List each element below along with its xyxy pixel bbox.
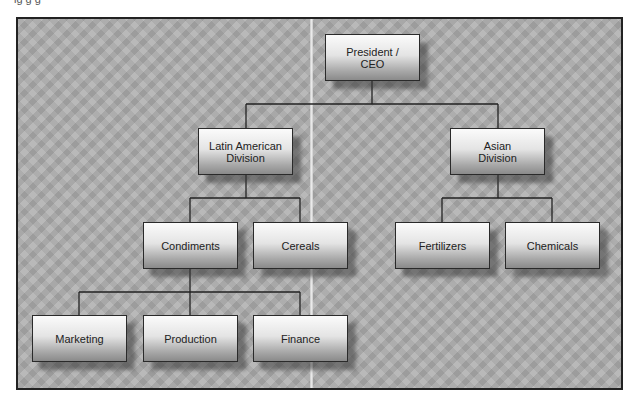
node-fertilizers[interactable]: Fertilizers xyxy=(395,222,490,269)
node-label: Production xyxy=(164,333,217,345)
node-chemicals[interactable]: Chemicals xyxy=(505,222,600,269)
node-label: Asian Division xyxy=(478,140,517,164)
node-label: Condiments xyxy=(161,240,220,252)
node-president-ceo[interactable]: President / CEO xyxy=(325,34,420,81)
cropped-caption-text: ig g g xyxy=(14,0,41,5)
node-label: Latin American Division xyxy=(209,140,282,164)
node-production[interactable]: Production xyxy=(143,315,238,362)
node-label: Fertilizers xyxy=(419,240,467,252)
node-marketing[interactable]: Marketing xyxy=(32,315,127,362)
node-condiments[interactable]: Condiments xyxy=(143,222,238,269)
org-chart-frame: President / CEO Latin American Division … xyxy=(16,17,623,390)
node-cereals[interactable]: Cereals xyxy=(253,222,348,269)
node-asian-division[interactable]: Asian Division xyxy=(450,128,545,175)
node-label: Cereals xyxy=(282,240,320,252)
node-label: Finance xyxy=(281,333,320,345)
node-label: President / CEO xyxy=(346,46,399,70)
node-latin-american-division[interactable]: Latin American Division xyxy=(198,128,293,175)
node-finance[interactable]: Finance xyxy=(253,315,348,362)
node-label: Chemicals xyxy=(527,240,578,252)
node-label: Marketing xyxy=(55,333,103,345)
